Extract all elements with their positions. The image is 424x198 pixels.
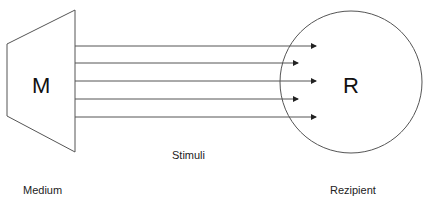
recipient-label: Rezipient xyxy=(330,184,376,196)
medium-label: Medium xyxy=(23,184,62,196)
diagram-canvas xyxy=(0,0,424,198)
medium-letter: M xyxy=(32,73,50,99)
stimuli-arrows xyxy=(75,46,316,117)
stimuli-label: Stimuli xyxy=(172,149,205,161)
recipient-letter: R xyxy=(343,73,359,99)
